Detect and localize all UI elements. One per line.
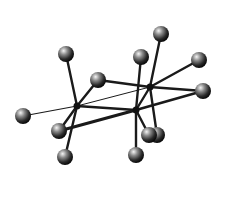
atom-G	[153, 26, 169, 42]
atoms-layer	[15, 26, 211, 165]
atom-F	[133, 49, 149, 65]
bond-L-R2	[77, 106, 136, 110]
bond-H-R1	[150, 60, 199, 87]
molecule-svg	[0, 0, 225, 209]
center-atom-R2	[133, 107, 140, 114]
bonds-layer	[23, 34, 203, 157]
atom-E	[57, 149, 73, 165]
atom-H	[191, 52, 207, 68]
atom-I	[195, 83, 211, 99]
atom-J1	[141, 127, 157, 143]
atom-A	[58, 46, 74, 62]
bond-G-R1	[150, 34, 161, 87]
atom-K	[128, 147, 144, 163]
molecule-diagram: Ball-and-stick molecular model	[0, 0, 225, 209]
bond-C-L	[23, 106, 77, 116]
center-atom-L	[74, 103, 81, 110]
atom-C	[15, 108, 31, 124]
center-atom-R1	[147, 84, 154, 91]
atom-B	[90, 72, 106, 88]
atom-D	[51, 123, 67, 139]
